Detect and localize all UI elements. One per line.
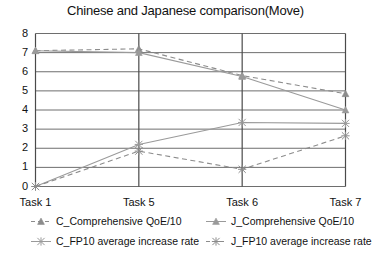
y-axis-tick-label: 0 [6,180,28,192]
y-axis-tick-label: 7 [6,46,28,58]
x-axis-tick-label: Task 5 [104,196,174,208]
legend-label: J_FP10 average increase rate [231,236,372,247]
x-axis-tick-label: Task 1 [1,196,71,208]
x-axis-tick-label: Task 7 [311,196,376,208]
legend-triangle-icon [30,216,52,227]
data-point-marker-star [238,165,246,173]
data-point-marker-star [135,147,143,155]
data-point-marker-star [341,132,349,140]
legend-item[interactable]: C_FP10 average increase rate [30,236,199,247]
y-axis-tick-label: 1 [6,160,28,172]
series-line-4 [36,136,346,187]
chart-title: Chinese and Japanese comparison(Move) [0,3,371,18]
legend-triangle-icon [205,216,227,227]
legend-label: C_Comprehensive QoE/10 [56,216,181,227]
x-axis-tick-label: Task 6 [207,196,277,208]
series-line-3 [36,122,346,186]
series-line-2 [36,51,346,110]
data-point-marker-star [238,118,246,126]
data-point-marker-star [31,182,39,190]
data-point-marker-star [341,119,349,127]
data-point-marker-star [212,237,220,245]
y-axis-tick-label: 4 [6,103,28,115]
legend-label: J_Comprehensive QoE/10 [231,216,354,227]
y-axis-tick-label: 6 [6,65,28,77]
y-axis-tick-label: 3 [6,122,28,134]
legend-item[interactable]: C_Comprehensive QoE/10 [30,216,181,227]
y-axis-tick-label: 5 [6,84,28,96]
data-point-marker-star [37,237,45,245]
legend-item[interactable]: J_FP10 average increase rate [205,236,372,247]
legend-item[interactable]: J_Comprehensive QoE/10 [205,216,354,227]
chart-legend: C_Comprehensive QoE/10J_Comprehensive Qo… [0,216,371,260]
chart-svg [0,28,371,193]
legend-star-icon [30,236,52,247]
plot-area [0,28,371,193]
y-axis-tick-label: 8 [6,27,28,39]
legend-label: C_FP10 average increase rate [56,236,199,247]
legend-star-icon [205,236,227,247]
y-axis-tick-label: 2 [6,141,28,153]
